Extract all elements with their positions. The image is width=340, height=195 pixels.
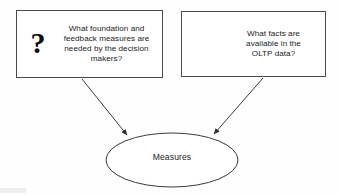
question-box-line-3: needed by the decision [55, 44, 158, 54]
question-box-text: What foundation and feedback measures ar… [55, 24, 162, 65]
question-box[interactable]: ? What foundation and feedback measures … [16, 10, 163, 78]
diagram-canvas: ? What foundation and feedback measures … [0, 0, 340, 195]
question-box-line-1: What foundation and [55, 24, 158, 34]
question-box-line-2: feedback measures are [55, 34, 158, 44]
scan-artifact [0, 188, 26, 193]
measures-ellipse-label: Measures [106, 152, 238, 162]
database-box-line-1: What facts are [226, 29, 321, 39]
database-box-line-3: OLTP data? [226, 49, 321, 59]
question-mark-icon: ? [21, 30, 55, 58]
arrow-database-to-measures [214, 78, 263, 134]
database-box-text: What facts are available in the OLTP dat… [226, 29, 325, 60]
database-box-line-2: available in the [226, 39, 321, 49]
arrow-question-to-measures [82, 79, 127, 135]
database-box[interactable]: What facts are available in the OLTP dat… [181, 11, 326, 77]
question-box-line-4: makers? [55, 54, 158, 64]
